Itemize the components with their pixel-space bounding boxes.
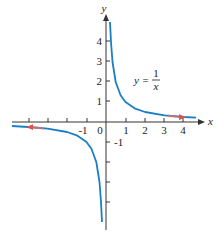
- x-axis-label: x: [207, 115, 213, 127]
- x-tick-label: -1: [78, 124, 87, 136]
- x-tick-label: 0: [97, 124, 103, 136]
- x-axis-arrow-icon: [198, 119, 205, 125]
- y-tick-label: 3: [97, 55, 103, 67]
- y-tick-label: 4: [97, 35, 103, 47]
- x-tick-label: 1: [123, 124, 129, 136]
- y-axis-arrow-icon: [103, 14, 109, 21]
- x-tick-label: 3: [161, 124, 167, 136]
- equation-denominator: x: [153, 80, 159, 92]
- equation-numerator: 1: [153, 67, 159, 79]
- y-tick-label: 2: [97, 75, 103, 87]
- curve-negative-branch: [12, 126, 102, 222]
- x-tick-label: 2: [142, 124, 148, 136]
- arrow-left-icon: [26, 124, 44, 130]
- y-tick-label: 1: [97, 95, 103, 107]
- equation-lhs: y =: [133, 74, 149, 86]
- x-tick-label: 4: [180, 124, 186, 136]
- y-axis-label: y: [101, 2, 107, 14]
- y-tick-label: -1: [114, 136, 123, 148]
- reciprocal-function-graph: -1 0 1 2 3 4 1 2 3 4 -1 x y y = 1 x: [0, 0, 217, 237]
